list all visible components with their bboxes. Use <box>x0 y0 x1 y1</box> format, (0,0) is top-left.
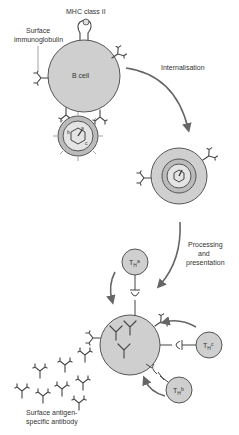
internalised-cell <box>137 146 218 204</box>
svg-text:a: a <box>81 125 84 131</box>
internalisation-arrow <box>126 68 188 128</box>
svg-text:b: b <box>67 129 70 135</box>
b-cell: B cell <box>48 40 120 112</box>
processing-label-1: Processing <box>188 241 223 249</box>
antibody-label-2: specific antibody <box>26 418 78 426</box>
mhc-label: MHC class II <box>66 8 106 15</box>
antigen-particle: a b c <box>53 111 103 161</box>
th-cell-a: THa <box>122 249 148 316</box>
internalisation-label: Internalisation <box>161 64 205 71</box>
b-cell-antigen-presentation-diagram: B cell MHC class II Surface immunoglobul… <box>0 0 239 435</box>
surface-ig-label-1: Surface <box>26 27 50 34</box>
processing-arrow <box>160 222 180 285</box>
surface-ig-label-2: immunoglobulin <box>14 36 63 44</box>
b-cell-label: B cell <box>72 72 90 79</box>
secreted-antibodies <box>15 348 92 410</box>
th-cell-c: THc <box>160 332 222 358</box>
th-cell-b: THb <box>146 364 192 403</box>
mhc-class-ii: MHC class II <box>66 8 106 40</box>
antibody-label-1: Surface antigen- <box>26 409 78 417</box>
presenting-b-cell <box>86 312 170 375</box>
processing-label-2: and <box>198 250 210 257</box>
processing-label-3: presentation <box>186 259 225 267</box>
